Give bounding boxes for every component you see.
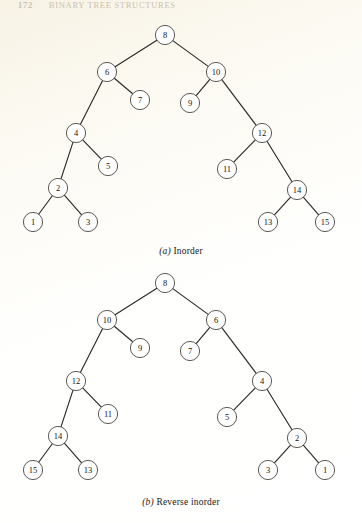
tree-edge bbox=[222, 80, 256, 126]
binary-tree-figure: 8610479122511141313158106129741411521513… bbox=[0, 0, 362, 523]
tree-node: 8 bbox=[155, 273, 174, 292]
node-label: 15 bbox=[321, 217, 330, 227]
tree-edge bbox=[80, 81, 102, 125]
tree-edge bbox=[303, 445, 318, 463]
tree-edge bbox=[115, 288, 157, 315]
node-label: 14 bbox=[293, 185, 302, 195]
tree-edge bbox=[115, 40, 157, 67]
tree-edge bbox=[64, 443, 81, 463]
node-label: 13 bbox=[84, 465, 93, 475]
tree-node: 1 bbox=[315, 460, 334, 479]
tree-node: 6 bbox=[206, 310, 225, 329]
tree-node: 5 bbox=[98, 156, 117, 175]
node-label: 15 bbox=[29, 465, 38, 475]
node-label: 12 bbox=[258, 128, 267, 138]
node-label: 11 bbox=[223, 164, 231, 174]
tree-node: 2 bbox=[287, 428, 306, 447]
tree-edge bbox=[114, 78, 132, 94]
tree-edge bbox=[173, 41, 208, 67]
node-label: 14 bbox=[54, 431, 63, 441]
node-label: 11 bbox=[104, 409, 112, 419]
tree-edge bbox=[303, 197, 318, 215]
caption-a-label: (a) bbox=[159, 246, 171, 256]
tree-node: 14 bbox=[48, 426, 67, 445]
caption-a-text: Inorder bbox=[173, 246, 202, 256]
tree-edge bbox=[83, 388, 102, 407]
tree-node: 4 bbox=[252, 371, 271, 390]
tree-edge bbox=[173, 289, 208, 315]
tree-node: 9 bbox=[180, 93, 199, 112]
caption-b-label: (b) bbox=[142, 497, 154, 507]
tree-edge bbox=[222, 328, 256, 374]
tree-node: 3 bbox=[258, 460, 277, 479]
node-label: 1 bbox=[323, 465, 327, 475]
tree-node: 14 bbox=[287, 180, 306, 199]
node-label: 5 bbox=[106, 161, 110, 171]
caption-inorder: (a) Inorder bbox=[0, 246, 362, 256]
tree-node: 4 bbox=[66, 123, 85, 142]
node-label: 8 bbox=[163, 30, 167, 40]
node-label: 10 bbox=[212, 67, 221, 77]
tree-edge bbox=[234, 388, 256, 410]
tree-edge bbox=[39, 196, 53, 215]
node-label: 12 bbox=[72, 376, 81, 386]
node-label: 7 bbox=[138, 95, 142, 105]
tree-node: 13 bbox=[78, 460, 97, 479]
tree-node: 12 bbox=[66, 371, 85, 390]
node-label: 3 bbox=[86, 217, 90, 227]
tree-node: 7 bbox=[180, 341, 199, 360]
node-label: 5 bbox=[225, 412, 229, 422]
tree-node: 11 bbox=[98, 404, 117, 423]
node-label: 6 bbox=[214, 315, 218, 325]
tree-edge bbox=[39, 444, 53, 463]
tree-node: 11 bbox=[217, 159, 236, 178]
tree-edge bbox=[61, 142, 73, 179]
tree-node: 3 bbox=[78, 212, 97, 231]
tree-edge bbox=[274, 445, 290, 463]
tree-node: 2 bbox=[48, 178, 67, 197]
tree-node: 10 bbox=[206, 62, 225, 81]
node-label: 2 bbox=[56, 183, 60, 193]
tree-edge bbox=[196, 79, 210, 95]
tree-node: 1 bbox=[23, 212, 42, 231]
tree-edge bbox=[64, 195, 81, 215]
tree-edge bbox=[267, 389, 292, 430]
caption-b-text: Reverse inorder bbox=[156, 497, 219, 507]
tree-edge bbox=[196, 327, 210, 343]
tree-edge bbox=[274, 197, 290, 215]
caption-reverse-inorder: (b) Reverse inorder bbox=[0, 497, 362, 507]
tree-edge bbox=[83, 140, 102, 159]
tree-node: 5 bbox=[217, 407, 236, 426]
node-label: 8 bbox=[163, 278, 167, 288]
node-label: 9 bbox=[138, 343, 142, 353]
tree-node: 6 bbox=[97, 62, 116, 81]
tree-node: 8 bbox=[155, 25, 174, 44]
node-label: 7 bbox=[188, 346, 192, 356]
node-label: 9 bbox=[188, 98, 192, 108]
tree-node: 15 bbox=[315, 212, 334, 231]
node-label: 3 bbox=[266, 465, 270, 475]
tree-edge bbox=[234, 140, 256, 162]
tree-node: 13 bbox=[258, 212, 277, 231]
tree-edge bbox=[61, 390, 73, 427]
tree-edge bbox=[267, 141, 292, 182]
tree-node: 12 bbox=[252, 123, 271, 142]
tree-edge bbox=[114, 326, 132, 342]
node-label: 6 bbox=[105, 67, 109, 77]
node-label: 2 bbox=[295, 433, 299, 443]
tree-edge bbox=[80, 329, 102, 373]
tree-node: 9 bbox=[130, 338, 149, 357]
tree-node: 15 bbox=[23, 460, 42, 479]
figure-page: 172BINARY TREE STRUCTURES 86104791225111… bbox=[0, 0, 362, 523]
node-label: 10 bbox=[103, 315, 112, 325]
node-label: 13 bbox=[264, 217, 273, 227]
node-label: 1 bbox=[31, 217, 35, 227]
tree-node: 7 bbox=[130, 90, 149, 109]
tree-node: 10 bbox=[97, 310, 116, 329]
